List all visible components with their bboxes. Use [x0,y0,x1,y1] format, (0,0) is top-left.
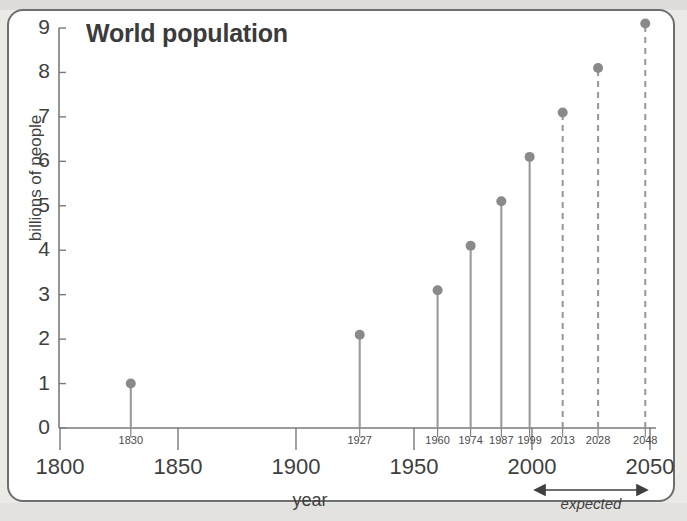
y-axis-tick-label: 7 [20,104,50,128]
data-point-marker [433,285,443,295]
data-point-marker [593,63,603,73]
y-axis-tick-label: 9 [20,15,50,39]
data-point-marker [640,19,650,29]
axes-layer [59,28,656,450]
y-axis-tick-label: 0 [20,415,50,439]
data-point-marker [466,241,476,251]
expected-annotation-label: expected [561,495,622,512]
x-axis-major-tick-label: 2000 [487,454,577,480]
chart-stage: World population billions of people 0123… [0,0,687,521]
x-axis-title: year [292,490,327,511]
data-point-year-label: 1927 [335,434,385,446]
y-axis-tick-label: 3 [20,282,50,306]
data-point-marker [525,152,535,162]
stems-layer [131,24,645,428]
x-axis-major-tick-label: 2050 [605,454,687,480]
data-point-year-label: 2048 [620,434,670,446]
x-axis-major-tick-label: 1800 [15,454,105,480]
x-axis-major-tick-label: 1950 [369,454,459,480]
data-point-marker [126,379,136,389]
data-point-marker [496,196,506,206]
data-point-marker [558,107,568,117]
data-point-marker [355,330,365,340]
y-axis-tick-label: 6 [20,148,50,172]
x-axis-major-tick-label: 1900 [251,454,341,480]
y-axis-tick-label: 8 [20,59,50,83]
y-axis-tick-label: 2 [20,326,50,350]
data-point-year-label: 1830 [106,434,156,446]
markers-layer [126,19,650,389]
y-axis-tick-label: 1 [20,371,50,395]
y-axis-tick-label: 4 [20,237,50,261]
x-axis-major-tick-label: 1850 [133,454,223,480]
y-axis-tick-label: 5 [20,193,50,217]
data-point-year-label: 2028 [573,434,623,446]
